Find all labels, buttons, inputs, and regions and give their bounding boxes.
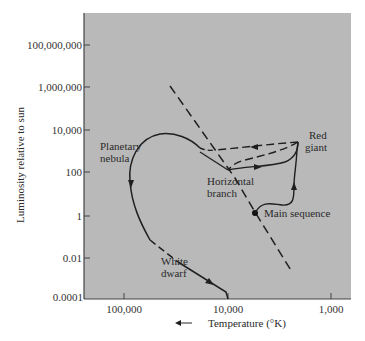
y-axis-title: Luminosity relative to sun — [14, 107, 26, 223]
x-tick-label: 100,000 — [106, 303, 142, 315]
label-horizontal-branch-line2: branch — [207, 187, 237, 199]
label-planetary-nebula-line1: Planetary — [100, 140, 142, 152]
x-axis-title: Temperature (°K) — [208, 317, 286, 330]
label-horizontal-branch-line1: Horizontal — [207, 175, 254, 187]
hr-diagram-chart: 100,000,000 1,000,000 10,000 100 1 0.01 … — [0, 0, 365, 341]
label-planetary-nebula-line2: nebula — [100, 152, 129, 164]
x-axis-title-group: Temperature (°K) — [178, 317, 286, 330]
label-white-dwarf-line1: White — [161, 255, 188, 267]
label-red-giant-line2: giant — [305, 141, 327, 153]
y-tick-label: 1 — [77, 210, 83, 222]
x-tick-labels: 100,000 10,000 1,000 — [106, 303, 344, 315]
y-tick-label: 0.0001 — [53, 291, 83, 303]
y-tick-label: 1,000,000 — [38, 81, 83, 93]
y-tick-label: 0.01 — [63, 252, 82, 264]
x-tick-label: 1,000 — [319, 303, 344, 315]
y-tick-labels: 100,000,000 1,000,000 10,000 100 1 0.01 … — [27, 39, 83, 303]
y-tick-label: 100 — [66, 166, 83, 178]
x-tick-label: 10,000 — [213, 303, 244, 315]
label-white-dwarf-line2: dwarf — [161, 267, 187, 279]
y-tick-label: 10,000 — [52, 124, 83, 136]
label-main-sequence: Main sequence — [264, 207, 330, 219]
label-red-giant-line1: Red — [309, 129, 327, 141]
y-tick-label: 100,000,000 — [27, 39, 83, 51]
